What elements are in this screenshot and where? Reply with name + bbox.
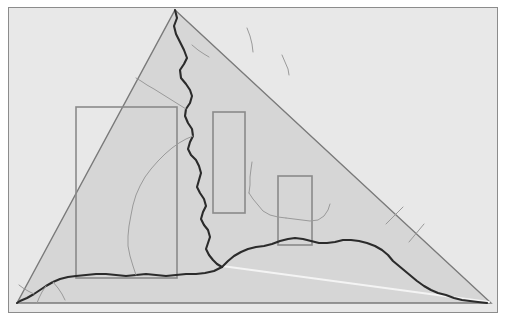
fracture-diagram-svg bbox=[0, 0, 506, 320]
figure-canvas bbox=[0, 0, 506, 320]
